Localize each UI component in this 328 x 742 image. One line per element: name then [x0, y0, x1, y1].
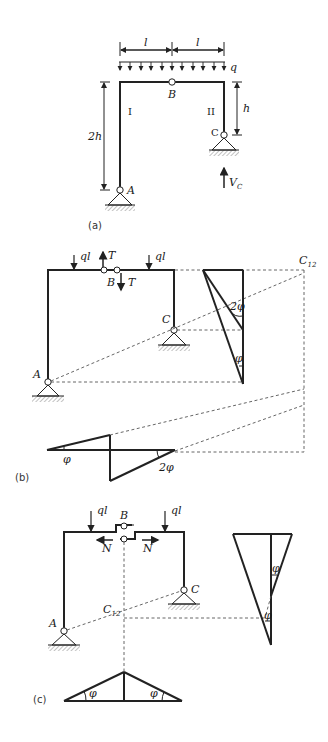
force-n-right: N	[142, 542, 153, 555]
hinge-b	[169, 79, 175, 85]
distributed-load: q	[119, 61, 237, 74]
span-dimensions: l l	[120, 36, 224, 56]
load-ql-left-c: ql	[97, 504, 108, 517]
construction-lines-b	[51, 270, 304, 452]
hinge-b-label: B	[167, 88, 176, 101]
displacement-diagram-vertical-b: 2φ φ	[203, 270, 245, 384]
span-right-label: l	[196, 36, 200, 49]
panel-c: B ql ql N N C A C12	[33, 504, 292, 705]
force-t-down: T	[128, 276, 137, 289]
support-c-label-c: C	[191, 583, 200, 596]
link-hinge-bottom	[121, 536, 127, 542]
hinge-b-label-c: B	[119, 509, 128, 522]
hinge-b-left	[101, 267, 107, 273]
member-i-label: I	[128, 106, 132, 117]
diag-phi-label-b: φ	[63, 453, 71, 466]
height-2h-label: 2h	[87, 130, 102, 143]
support-a-label-c: A	[48, 617, 57, 630]
height-h-dimension: h	[232, 82, 250, 135]
load-ql-left-b: ql	[80, 250, 91, 263]
height-2h-dimension: 2h	[87, 82, 110, 190]
span-left-label: l	[144, 36, 148, 49]
panel-b: B ql ql T T C A	[15, 249, 317, 483]
load-ql-right-c: ql	[171, 504, 182, 517]
reaction-vc: VC	[224, 168, 243, 191]
diag-phi-left-label: φ	[89, 687, 97, 700]
load-q-label: q	[230, 61, 237, 74]
load-ql-right-b: ql	[155, 250, 166, 263]
diag-phi-right-label: φ	[150, 687, 158, 700]
angle-phi-top-label: φ	[272, 562, 280, 575]
force-t-up: T	[108, 249, 117, 262]
member-ii-label: II	[207, 106, 215, 117]
caption-a: (a)	[88, 220, 102, 231]
displacement-diagram-vertical-c: φ φ	[233, 534, 292, 645]
diag-2phi-label-b: 2φ	[158, 461, 174, 474]
caption-b: (b)	[15, 472, 29, 483]
hinge-b-label-b: B	[106, 276, 115, 289]
support-a-label: A	[126, 184, 135, 197]
displacement-diagram-horizontal-b: φ 2φ	[47, 435, 175, 481]
height-h-label: h	[243, 102, 250, 115]
construction-lines-c	[67, 542, 267, 672]
support-c-label: C	[211, 127, 219, 138]
hinge-b-right	[114, 267, 120, 273]
support-c-c: C	[168, 583, 200, 610]
center-c12-b: C12	[299, 254, 317, 269]
center-c12-c: C12	[103, 603, 121, 618]
angle-phi-bottom-label: φ	[264, 609, 272, 622]
panel-a: l l q B I II	[87, 36, 250, 231]
support-c-label-b: C	[162, 313, 171, 326]
support-c: C	[209, 127, 239, 156]
support-a-label-b: A	[32, 368, 41, 381]
angle-2phi-label: 2φ	[229, 300, 245, 313]
angle-phi-label: φ	[235, 352, 243, 365]
support-a: A	[105, 184, 135, 211]
force-n-left: N	[101, 542, 112, 555]
displacement-diagram-horizontal-c: φ φ	[64, 672, 182, 701]
link-hinge-top	[121, 523, 127, 529]
support-a-b: A	[32, 368, 64, 402]
reaction-vc-label: VC	[229, 176, 243, 191]
caption-c: (c)	[33, 694, 46, 705]
